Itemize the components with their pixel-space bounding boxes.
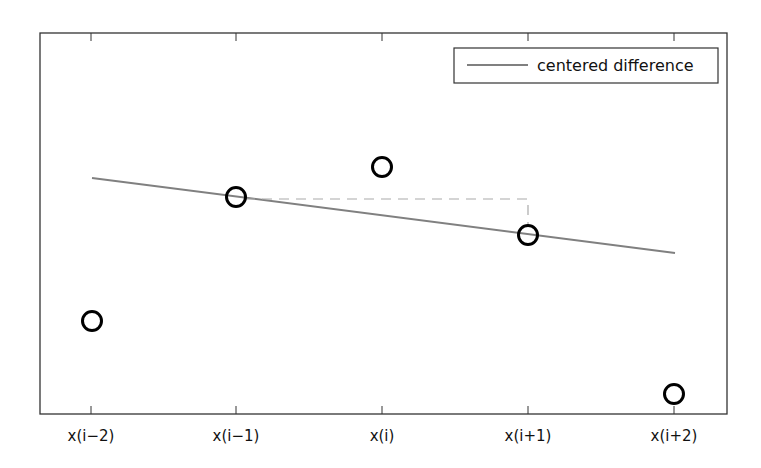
top-axis-ticks	[91, 33, 674, 41]
legend-label: centered difference	[537, 56, 694, 75]
data-points	[83, 158, 684, 404]
data-point-marker	[665, 385, 684, 404]
tick-label: x(i+1)	[505, 427, 552, 445]
legend: centered difference	[454, 48, 718, 83]
centered-difference-line	[92, 178, 675, 253]
x-axis-ticks	[91, 406, 674, 414]
tick-label: x(i+2)	[651, 427, 698, 445]
data-point-marker	[373, 158, 392, 177]
tick-label: x(i)	[370, 427, 395, 445]
tick-label: x(i−1)	[213, 427, 260, 445]
data-point-marker	[83, 312, 102, 331]
plot-frame	[40, 33, 727, 414]
tick-label: x(i−2)	[68, 427, 115, 445]
chart-canvas: x(i−2) x(i−1) x(i) x(i+1) x(i+2) centere…	[0, 0, 761, 468]
